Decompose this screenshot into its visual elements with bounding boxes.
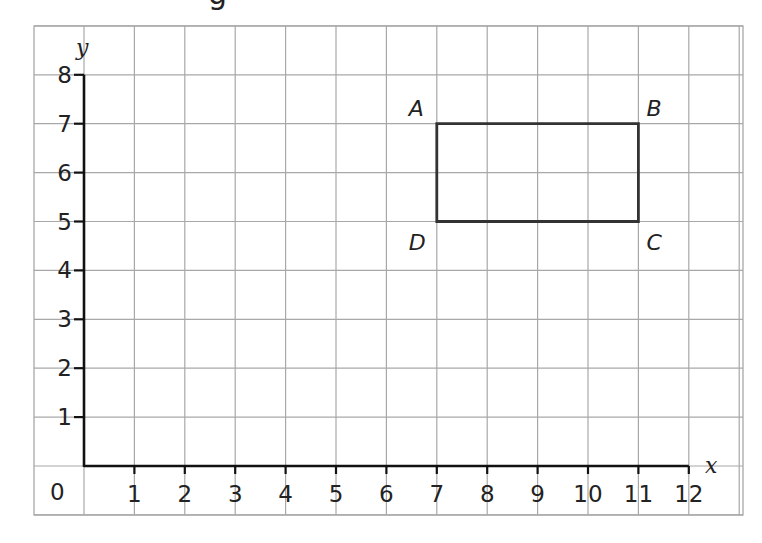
y-tick-label: 1 [57, 404, 72, 430]
x-tick-label: 1 [127, 481, 142, 507]
grid-lines [34, 26, 743, 515]
rectangle-abcd: ABCD [407, 96, 663, 255]
x-tick-label: 11 [624, 481, 653, 507]
x-tick-label: 9 [530, 481, 545, 507]
x-tick-label: 8 [480, 481, 495, 507]
vertex-label-d: D [409, 230, 426, 255]
y-tick-label: 5 [57, 209, 72, 235]
vertex-label-b: B [646, 96, 661, 121]
y-axis-label: y [75, 35, 89, 60]
y-tick-label: 3 [57, 306, 72, 332]
x-tick-label: 10 [573, 481, 602, 507]
x-tick-label: 3 [228, 481, 243, 507]
y-tick-label: 4 [57, 257, 72, 283]
tick-labels: 12345678910111212345678 [57, 62, 703, 507]
x-tick-label: 6 [379, 481, 394, 507]
y-tick-label: 2 [57, 355, 72, 381]
vertex-label-c: C [646, 230, 662, 255]
axes [74, 75, 689, 474]
y-tick-label: 7 [57, 111, 72, 137]
y-tick-label: 8 [57, 62, 72, 88]
coordinate-plane: g 12345678910111212345678 x y 0 ABCD [0, 0, 762, 543]
x-tick-label: 4 [278, 481, 293, 507]
origin-label: 0 [50, 479, 65, 505]
cropped-title-fragment: g [208, 0, 227, 11]
vertex-label-a: A [407, 96, 424, 121]
x-tick-label: 12 [674, 481, 703, 507]
x-tick-label: 2 [177, 481, 192, 507]
x-axis-label: x [705, 453, 718, 478]
x-tick-label: 7 [429, 481, 444, 507]
coordinate-grid-figure: g 12345678910111212345678 x y 0 ABCD [0, 0, 762, 543]
x-tick-label: 5 [329, 481, 344, 507]
y-tick-label: 6 [57, 160, 72, 186]
